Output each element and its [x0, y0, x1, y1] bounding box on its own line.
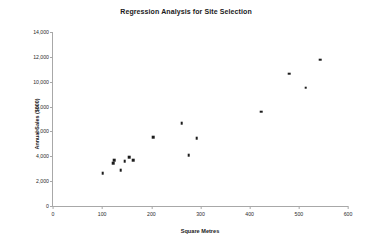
y-axis-tick-label: 10,000	[33, 79, 53, 85]
x-axis-tick-label: 300	[196, 206, 205, 217]
data-point	[181, 122, 184, 125]
data-point	[195, 137, 198, 140]
x-axis-tick-label: 500	[295, 206, 304, 217]
y-axis-tick-label: 12,000	[33, 54, 53, 60]
data-point	[152, 136, 155, 139]
y-axis-tick-label: 6,000	[36, 128, 53, 134]
x-axis-tick-label: 200	[147, 206, 156, 217]
y-axis-tick-label: 4,000	[36, 153, 53, 159]
data-point	[113, 159, 116, 162]
chart-title: Regression Analysis for Site Selection	[0, 8, 372, 15]
data-point	[120, 169, 123, 172]
x-axis-tick-label: 400	[245, 206, 254, 217]
y-axis-tick-label: 14,000	[33, 29, 53, 35]
data-point	[187, 154, 190, 157]
data-point	[101, 172, 104, 175]
x-axis-tick-label: 100	[98, 206, 107, 217]
y-axis-tick-label: 2,000	[36, 178, 53, 184]
data-point	[319, 59, 322, 62]
plot-area: 02,0004,0006,0008,00010,00012,00014,0000…	[52, 32, 348, 207]
x-axis-tick-label: 0	[52, 206, 55, 217]
x-axis-title: Square Metres	[52, 228, 348, 234]
data-point	[260, 110, 263, 113]
data-point	[128, 156, 131, 159]
data-point	[132, 159, 135, 162]
data-point	[304, 86, 307, 89]
data-point	[112, 162, 115, 165]
data-point	[123, 160, 126, 163]
x-axis-tick-label: 600	[344, 206, 353, 217]
y-axis-tick-label: 8,000	[36, 104, 53, 110]
scatter-chart: Regression Analysis for Site Selection A…	[0, 0, 372, 247]
data-point	[288, 72, 291, 75]
